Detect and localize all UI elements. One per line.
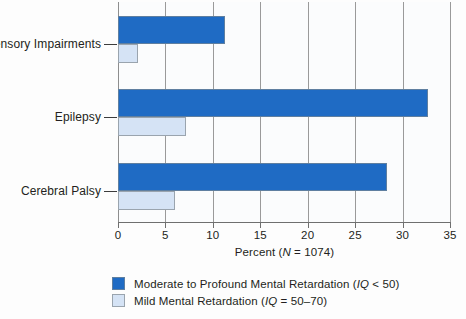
legend-swatch	[112, 294, 125, 307]
x-tick-mark	[403, 222, 404, 228]
x-tick-label: 20	[301, 229, 314, 241]
legend-label: Moderate to Profound Mental Retardation …	[134, 278, 399, 290]
legend-label: Mild Mental Retardation (IQ = 50–70)	[134, 295, 327, 307]
gridline	[450, 2, 451, 222]
x-axis-title-suffix: = 1074)	[291, 246, 334, 258]
x-tick-label: 10	[206, 229, 219, 241]
x-tick-label: 0	[115, 229, 122, 241]
bar-moderate-to-profound	[118, 89, 428, 117]
legend-item: Mild Mental Retardation (IQ = 50–70)	[112, 292, 399, 309]
x-axis-title-prefix: Percent (	[235, 246, 283, 258]
category-axis: Sensory ImpairmentsEpilepsyCerebral Pals…	[0, 0, 118, 222]
plot-area	[118, 2, 450, 222]
x-tick-label: 35	[443, 229, 456, 241]
category-tick	[104, 44, 117, 45]
chart-legend: Moderate to Profound Mental Retardation …	[112, 275, 399, 309]
bar-mild	[118, 191, 175, 210]
x-tick-mark	[165, 222, 166, 228]
category-tick	[104, 191, 117, 192]
x-tick-mark	[118, 222, 119, 228]
category-tick	[104, 117, 117, 118]
bar-mild	[118, 44, 138, 63]
legend-item: Moderate to Profound Mental Retardation …	[112, 275, 399, 292]
x-axis-line	[118, 222, 451, 223]
x-tick-label: 15	[254, 229, 267, 241]
category-label: Epilepsy	[55, 110, 101, 124]
bar-chart-figure: Sensory ImpairmentsEpilepsyCerebral Pals…	[0, 0, 466, 319]
category-label: Cerebral Palsy	[21, 184, 101, 198]
x-tick-label: 30	[396, 229, 409, 241]
category-label: Sensory Impairments	[0, 37, 101, 51]
legend-swatch	[112, 277, 125, 290]
x-tick-mark	[260, 222, 261, 228]
x-tick-mark	[213, 222, 214, 228]
bar-moderate-to-profound	[118, 163, 387, 191]
x-tick-label: 25	[349, 229, 362, 241]
x-axis-title-italic: N	[282, 246, 290, 258]
bar-moderate-to-profound	[118, 16, 225, 44]
x-tick-mark	[450, 222, 451, 228]
bar-mild	[118, 117, 186, 136]
x-tick-mark	[308, 222, 309, 228]
x-tick-mark	[355, 222, 356, 228]
x-tick-label: 5	[162, 229, 169, 241]
x-axis-title: Percent (N = 1074)	[118, 246, 451, 258]
